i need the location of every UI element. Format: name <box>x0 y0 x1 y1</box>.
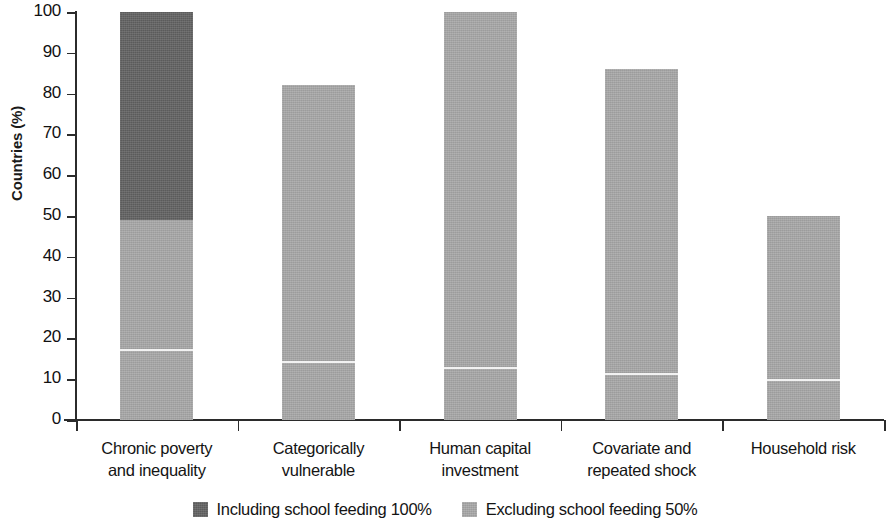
bar-segment-excluding-school-feeding <box>282 85 355 420</box>
y-axis-tick-mark <box>67 94 76 96</box>
bar-marker-line <box>120 349 193 351</box>
y-axis-tick-label: 60 <box>43 164 61 184</box>
legend-label: Excluding school feeding 50% <box>486 500 698 519</box>
y-axis-tick-label: 40 <box>43 246 61 266</box>
y-axis-tick-label: 10 <box>43 368 61 388</box>
bar-marker-line <box>605 373 678 375</box>
x-axis-category-label-line: Human capital <box>399 437 561 459</box>
y-axis-tick-mark <box>67 420 76 422</box>
x-axis-category-label: Household risk <box>722 437 884 459</box>
y-axis-tick-label: 0 <box>52 409 61 429</box>
legend-swatch <box>462 502 477 517</box>
y-axis-tick-mark <box>67 257 76 259</box>
y-axis-tick-label: 100 <box>34 1 61 21</box>
y-axis-tick-label: 90 <box>43 42 61 62</box>
bar-texture <box>605 69 678 420</box>
x-axis-category-label-line: Household risk <box>722 437 884 459</box>
bar-marker-line <box>767 379 840 381</box>
bar-segment-including-school-feeding <box>120 12 193 220</box>
legend-item: Excluding school feeding 50% <box>462 500 698 519</box>
chart-container: Countries (%) 0102030405060708090100 Chr… <box>0 0 890 531</box>
y-axis-tick-mark <box>67 53 76 55</box>
legend-label: Including school feeding 100% <box>217 500 432 519</box>
bar-texture <box>444 12 517 420</box>
legend-swatch <box>193 502 208 517</box>
y-axis-tick-label: 80 <box>43 83 61 103</box>
bar-texture <box>767 216 840 420</box>
x-axis-category-label-line: Categorically <box>238 437 400 459</box>
y-axis-tick-mark <box>67 379 76 381</box>
y-axis-tick-mark <box>67 12 76 14</box>
bar-texture <box>282 85 355 420</box>
x-axis-category-label-line: vulnerable <box>238 459 400 481</box>
y-axis-title: Countries (%) <box>8 74 25 234</box>
bar <box>120 12 193 420</box>
y-axis-tick-mark <box>67 298 76 300</box>
bar-segment-excluding-school-feeding <box>120 220 193 420</box>
legend-item: Including school feeding 100% <box>193 500 432 519</box>
x-axis-tick-mark <box>722 420 724 431</box>
bar-segment-excluding-school-feeding <box>767 216 840 420</box>
plot-area <box>76 12 884 420</box>
x-axis-category-label: Human capitalinvestment <box>399 437 561 481</box>
bar <box>767 216 840 420</box>
bar-marker-line <box>282 361 355 363</box>
x-axis-category-label-line: Covariate and <box>561 437 723 459</box>
x-axis-category-label-line: repeated shock <box>561 459 723 481</box>
y-axis-tick-label: 70 <box>43 123 61 143</box>
x-axis-tick-mark <box>884 420 886 431</box>
legend-swatch-texture <box>193 502 208 517</box>
y-axis-tick-label: 50 <box>43 205 61 225</box>
x-axis-tick-mark <box>76 420 78 431</box>
chart-legend: Including school feeding 100%Excluding s… <box>0 500 890 519</box>
bar-segment-excluding-school-feeding <box>605 69 678 420</box>
bar <box>282 85 355 420</box>
y-axis-tick-label: 20 <box>43 327 61 347</box>
bar-texture <box>120 12 193 220</box>
legend-swatch-texture <box>462 502 477 517</box>
x-axis-category-label-line: investment <box>399 459 561 481</box>
y-axis-tick-mark <box>67 134 76 136</box>
bar-texture <box>120 220 193 420</box>
y-axis-tick-mark <box>67 338 76 340</box>
bar-marker-line <box>444 367 517 369</box>
x-axis-tick-mark <box>399 420 401 431</box>
y-axis-tick-mark <box>67 216 76 218</box>
y-axis-tick-label: 30 <box>43 287 61 307</box>
x-axis-category-label: Categoricallyvulnerable <box>238 437 400 481</box>
bar-segment-excluding-school-feeding <box>444 12 517 420</box>
x-axis-category-label: Chronic povertyand inequality <box>76 437 238 481</box>
y-axis-tick-mark <box>67 175 76 177</box>
x-axis-tick-mark <box>238 420 240 431</box>
bar <box>444 12 517 420</box>
x-axis-tick-mark <box>561 420 563 431</box>
bar <box>605 69 678 420</box>
x-axis-category-label-line: and inequality <box>76 459 238 481</box>
x-axis-category-label-line: Chronic poverty <box>76 437 238 459</box>
x-axis-category-label: Covariate andrepeated shock <box>561 437 723 481</box>
